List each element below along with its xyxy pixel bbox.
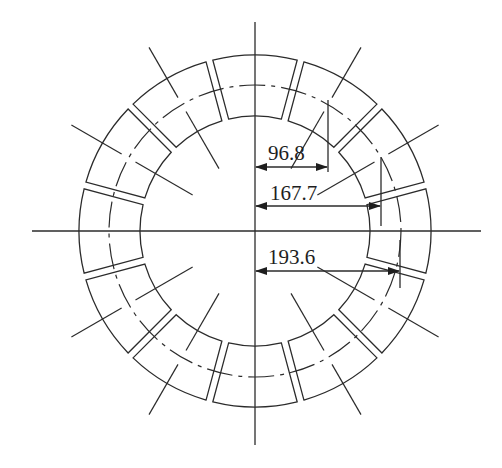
centerline-inner xyxy=(317,267,374,300)
dimension-label-193-6: 193.6 xyxy=(268,245,315,269)
dimension-label-167-7: 167.7 xyxy=(270,181,317,205)
centerline-outer xyxy=(332,364,361,414)
centerline-outer xyxy=(71,125,121,154)
ring-segment xyxy=(339,264,424,353)
centerline-outer xyxy=(388,125,438,154)
ring-segment xyxy=(133,62,222,147)
centerline-outer xyxy=(71,308,121,337)
centerline-outer xyxy=(149,47,178,97)
ring-segment xyxy=(86,264,171,353)
centerline-inner xyxy=(186,293,219,350)
centerline-outer xyxy=(388,308,438,337)
dimension-label-96-8: 96.8 xyxy=(268,141,305,165)
ring-segment xyxy=(133,315,222,400)
dimension-96-8: 96.8 xyxy=(256,100,328,172)
centerline-inner xyxy=(291,293,324,350)
centerline-inner xyxy=(135,267,192,300)
centerline-inner xyxy=(135,162,192,195)
centerline-outer xyxy=(149,364,178,414)
ring-segment xyxy=(86,109,171,198)
ring-segment xyxy=(288,315,377,400)
centerline-inner xyxy=(186,111,219,168)
ring-segment xyxy=(288,62,377,147)
centerline-outer xyxy=(332,47,361,97)
ring-segment-diagram: 96.8 167.7 193.6 xyxy=(0,0,502,468)
dimension-193-6: 193.6 xyxy=(256,240,400,288)
